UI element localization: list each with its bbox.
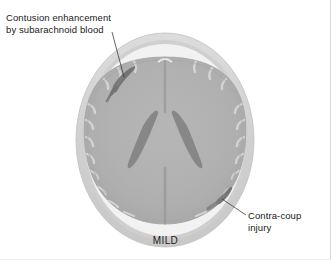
figure-canvas: Contusion enhancement by subarachnoid bl…: [0, 0, 331, 260]
annotation-contusion-label: Contusion enhancement by subarachnoid bl…: [6, 12, 111, 36]
annotation-contracoup-label: Contra-coup injury: [248, 210, 301, 234]
severity-caption: MILD: [0, 235, 331, 246]
